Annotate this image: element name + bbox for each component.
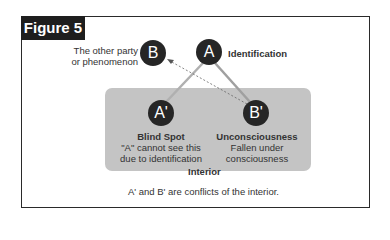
node-a-prime: A' [148, 100, 174, 126]
unconsciousness-desc-1: Fallen under [215, 142, 299, 153]
blind-spot-desc-1: "A" cannot see this [111, 142, 211, 153]
node-a-label: Identification [228, 48, 287, 59]
node-b-label: The other party or phenomenon [66, 45, 138, 67]
node-a: A [196, 39, 222, 65]
interior-label: Interior [188, 166, 221, 177]
blind-spot-block: Blind Spot "A" cannot see this due to id… [111, 131, 211, 164]
node-b-prime: B' [243, 100, 269, 126]
blind-spot-desc-2: due to identification [111, 153, 211, 164]
unconsciousness-title: Unconsciousness [215, 131, 299, 142]
blind-spot-title: Blind Spot [111, 131, 211, 142]
node-b-label-line2: or phenomenon [66, 56, 138, 67]
node-b: B [140, 40, 166, 66]
unconsciousness-block: Unconsciousness Fallen under consciousne… [215, 131, 299, 164]
figure-caption: A' and B' are conflicts of the interior. [128, 186, 279, 197]
unconsciousness-desc-2: consciousness [215, 153, 299, 164]
node-b-label-line1: The other party [66, 45, 138, 56]
